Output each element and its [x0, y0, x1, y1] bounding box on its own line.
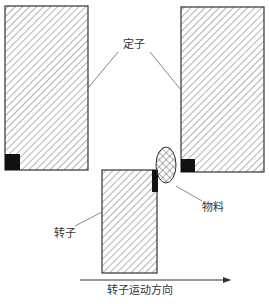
- material-label: 物料: [202, 202, 224, 214]
- right-stator-block: [181, 159, 195, 172]
- material-ellipse: [156, 147, 176, 183]
- material-leader: [176, 186, 202, 201]
- rotor: [102, 170, 158, 273]
- rotor-label: 转子: [54, 228, 76, 240]
- direction-label: 转子运动方向: [107, 285, 173, 297]
- left-stator: [5, 6, 88, 170]
- left-stator-block: [5, 154, 20, 170]
- rotor-leader: [75, 212, 102, 226]
- right-stator: [181, 7, 264, 172]
- stator-leader-right: [150, 52, 181, 90]
- stator-label: 定子: [123, 39, 145, 51]
- stator-leader-left: [88, 52, 118, 88]
